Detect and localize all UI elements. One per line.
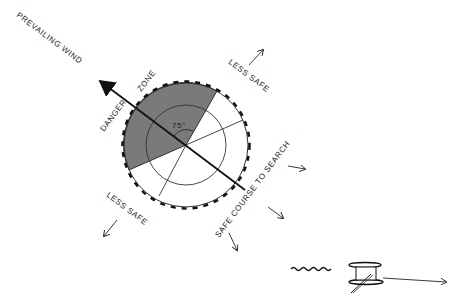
angle-label: 75°	[172, 121, 186, 130]
drift-arrow-down	[229, 233, 237, 250]
drift-arrow-top	[249, 50, 263, 65]
danger-zone-sector	[123, 82, 217, 170]
prevailing-wind-label: PREVAILING WIND	[15, 10, 84, 65]
less-safe-top-label: LESS SAFE	[227, 57, 272, 94]
danger-label-pos: DANGER	[98, 98, 128, 134]
less-safe-bottom-label: LESS SAFE	[105, 190, 150, 227]
aircraft-with-trail-icon	[291, 263, 446, 294]
drift-arrow-right-1	[288, 166, 305, 169]
wind-danger-diagram: 75° PREVAILING WIND DANGER ZONE LESS SAF…	[0, 0, 461, 305]
drift-arrow-right-2	[268, 207, 283, 218]
wavy-trail	[291, 268, 331, 271]
drift-arrow-left	[104, 220, 117, 236]
